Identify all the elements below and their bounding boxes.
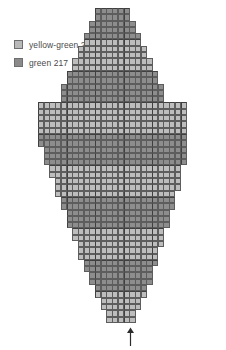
stitch-cell-empty [181, 317, 187, 323]
chart-area [0, 0, 226, 350]
stitch-row [38, 317, 186, 323]
pattern-chart-page: yellow-green 216 green 217 [0, 0, 226, 350]
stitch-grid [38, 8, 186, 323]
center-arrow-icon [126, 327, 135, 346]
